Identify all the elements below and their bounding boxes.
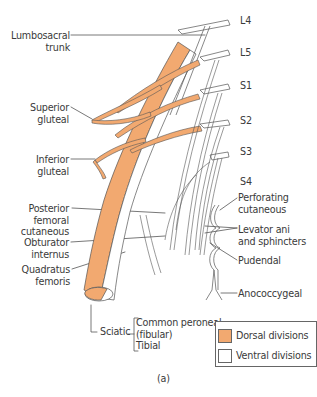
- label-superior-gluteal: Superior gluteal: [30, 102, 69, 125]
- ventral-swatch: [218, 349, 232, 363]
- label-quadratus-femoris: Quadratus femoris: [22, 264, 70, 287]
- label-obturator-internus: Obturator internus: [24, 237, 69, 260]
- legend-item-dorsal: Dorsal divisions: [218, 327, 308, 344]
- label-lumbosacral-trunk: Lumbosacral trunk: [11, 30, 70, 53]
- figure-caption: (a): [157, 373, 170, 385]
- legend: Dorsal divisions Ventral divisions: [215, 321, 317, 367]
- root-label-l4: L4: [240, 15, 251, 27]
- label-sciatic: Sciatic: [100, 326, 130, 338]
- leader-superior-gluteal: [71, 107, 92, 119]
- legend-item-ventral: Ventral divisions: [218, 347, 311, 364]
- root-label-s2: S2: [240, 115, 252, 127]
- root-label-s1: S1: [240, 80, 252, 92]
- label-inferior-gluteal: Inferior gluteal: [36, 154, 69, 177]
- label-anococcygeal: Anococcygeal: [238, 288, 302, 300]
- label-perforating-cutaneous: Perforating cutaneous: [238, 192, 289, 215]
- root-label-l5: L5: [240, 47, 251, 59]
- label-posterior-femoral-cutaneous: Posterior femoral cutaneous: [21, 203, 69, 238]
- label-sciatic-branches: Common peroneal (fibular) Tibial: [136, 317, 221, 352]
- label-levator-ani: Levator ani and sphincters: [238, 224, 306, 247]
- dorsal-swatch: [218, 329, 232, 343]
- label-pudendal: Pudendal: [238, 255, 281, 267]
- root-label-s4: S4: [240, 176, 252, 188]
- root-label-s3: S3: [240, 146, 252, 158]
